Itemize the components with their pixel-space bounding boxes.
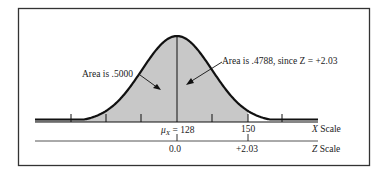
shaded-area: [35, 36, 248, 122]
z-scale-label: Z Scale: [312, 144, 340, 154]
normal-curve-figure: μX = 128 150 X Scale 0.0 +2.03 Z Scale A…: [0, 0, 380, 178]
x-value-label: 150: [241, 124, 256, 134]
right-area-annotation: Area is .4788, since Z = +2.03: [222, 56, 338, 66]
z-value-label: +2.03: [236, 144, 258, 154]
normal-curve-svg: μX = 128 150 X Scale 0.0 +2.03 Z Scale A…: [0, 0, 380, 178]
left-area-annotation: Area is .5000: [82, 69, 133, 79]
z-zero-label: 0.0: [169, 144, 181, 154]
x-scale-label: X Scale: [311, 124, 341, 134]
